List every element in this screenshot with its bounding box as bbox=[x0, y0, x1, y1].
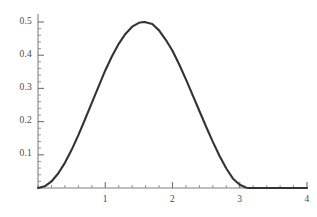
data-series-curve bbox=[38, 22, 307, 188]
y-tick-label: 0.4 bbox=[6, 49, 32, 59]
y-tick-label: 0.2 bbox=[6, 115, 32, 125]
plot-figure: 0.10.20.30.40.5 1234 bbox=[0, 0, 317, 217]
plot-canvas bbox=[0, 0, 317, 217]
y-axis-group bbox=[38, 14, 44, 188]
y-tick-label: 0.3 bbox=[6, 82, 32, 92]
x-tick-label: 2 bbox=[163, 194, 183, 204]
y-tick-label: 0.1 bbox=[6, 148, 32, 158]
x-tick-label: 4 bbox=[297, 194, 317, 204]
x-tick-label: 1 bbox=[95, 194, 115, 204]
x-tick-label: 3 bbox=[230, 194, 250, 204]
y-tick-label: 0.5 bbox=[6, 16, 32, 26]
